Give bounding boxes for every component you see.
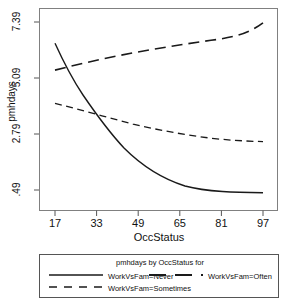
x-tick-label-3: 65 (165, 217, 195, 229)
x-axis-title: OccStatus (39, 231, 279, 243)
legend-swatch-often (149, 272, 203, 278)
legend-title: pmhdays by OccStatus for (40, 258, 280, 267)
y-axis-ticks (34, 22, 39, 190)
x-tick-label-4: 81 (206, 217, 236, 229)
chart-figure: pmhdays 7.39 5.09 2.79 .49 17 33 49 65 8… (0, 0, 283, 301)
y-tick-label-1: 5.09 (11, 61, 22, 95)
series-line-often (55, 23, 263, 70)
x-axis-ticks (55, 211, 263, 217)
x-tick-label-2: 49 (123, 217, 153, 229)
legend: pmhdays by OccStatus for WorkVsFam=Never… (39, 254, 279, 298)
series-line-sometimes (55, 103, 263, 141)
series-line-never (55, 43, 263, 193)
y-tick-label-3: .49 (11, 173, 22, 207)
y-tick-label-0: 7.39 (11, 5, 22, 39)
x-tick-label-5: 97 (248, 217, 278, 229)
x-tick-label-1: 33 (82, 217, 112, 229)
plot-frame (40, 9, 278, 211)
legend-swatch-never (49, 272, 103, 278)
legend-label-often: WorkVsFam=Often (208, 272, 272, 281)
legend-label-sometimes: WorkVsFam=Sometimes (108, 284, 191, 293)
legend-swatch-sometimes (49, 284, 103, 290)
y-tick-label-2: 2.79 (11, 117, 22, 151)
x-tick-label-0: 17 (40, 217, 70, 229)
